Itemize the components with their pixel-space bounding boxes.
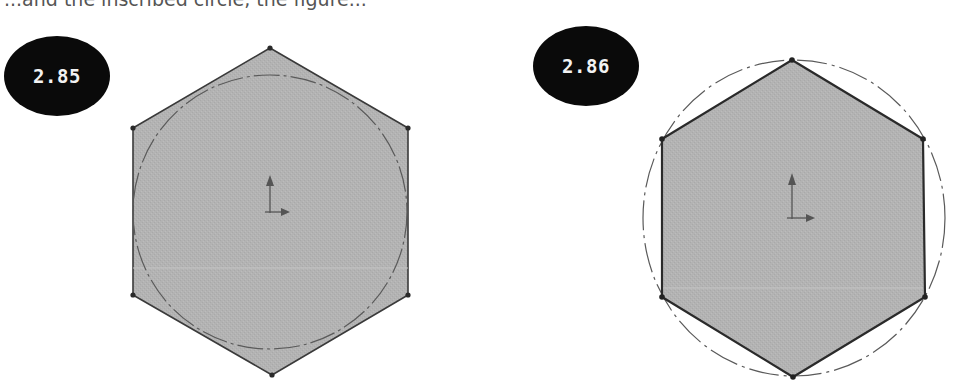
figure-number-label: 2.86 <box>562 55 610 77</box>
figure-number-label: 2.85 <box>33 65 81 87</box>
figure-number-badge: 2.86 <box>533 26 639 106</box>
figure-2-85 <box>130 45 410 377</box>
figure-2-86 <box>643 57 945 380</box>
figures-canvas <box>0 0 955 389</box>
figure-number-badge: 2.85 <box>4 36 110 116</box>
